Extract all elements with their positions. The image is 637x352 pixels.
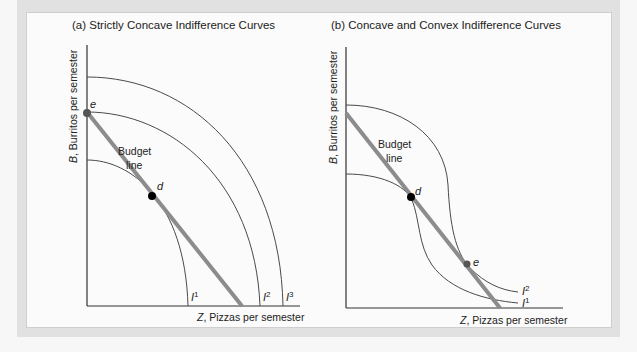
panel-a-title: (a) Strictly Concave Indifference Curves xyxy=(72,19,275,31)
panel-a-y-label: B, Burritos per semester xyxy=(67,49,79,163)
panel-b-curve-i2 xyxy=(346,105,518,292)
panel-a-point-e xyxy=(83,109,91,117)
panel-a-curve-i1 xyxy=(87,160,188,306)
panel-a-budget-label-1: Budget xyxy=(118,145,151,157)
panel-a-label-i3: I3 xyxy=(286,290,294,303)
panel-a-x-label: Z, Pizzas per semester xyxy=(196,311,305,323)
panel-b-budget-label-1: Budget xyxy=(378,138,411,150)
panel-b-title: (b) Concave and Convex Indifference Curv… xyxy=(331,19,561,31)
panel-b-budget-line xyxy=(346,113,500,308)
panel-a-point-d xyxy=(148,192,156,200)
panel-b-point-e xyxy=(464,261,471,268)
panel-a-label-i1: I1 xyxy=(191,290,199,303)
panel-b-point-d-label: d xyxy=(415,185,422,197)
panel-b-curve-i1 xyxy=(346,174,518,303)
panel-a-point-e-label: e xyxy=(90,98,96,110)
panel-b-x-label: Z, Pizzas per semester xyxy=(459,314,568,326)
indifference-curves-figure: (a) Strictly Concave Indifference Curves… xyxy=(0,0,637,352)
panel-a-point-d-label: d xyxy=(157,180,164,192)
panel-a-label-i2: I2 xyxy=(263,290,271,303)
panel-b-budget-label-2: line xyxy=(386,152,403,164)
panel-a: (a) Strictly Concave Indifference Curves… xyxy=(67,19,305,323)
panel-b-point-e-label: e xyxy=(473,256,479,268)
panel-b-point-d xyxy=(407,193,415,201)
panel-b-y-label: B, Burritos per semester xyxy=(327,50,339,164)
panel-a-budget-label-2: line xyxy=(126,159,143,171)
panel-a-budget-line xyxy=(87,112,242,306)
panel-b-label-i1: I1 xyxy=(522,296,530,309)
panel-b: (b) Concave and Convex Indifference Curv… xyxy=(327,19,568,326)
panel-a-curve-i2 xyxy=(87,112,260,306)
